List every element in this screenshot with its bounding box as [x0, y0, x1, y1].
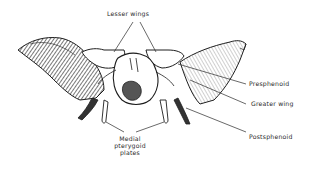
leader-postsphenoid	[186, 108, 246, 132]
right-greater-wing	[180, 41, 246, 104]
label-postsphenoid: Postsphenoid	[249, 133, 293, 140]
sphenoid-diagram: Lesser wings Presphenoid Greater wing Po…	[0, 0, 319, 174]
label-medial-line3: plates	[104, 149, 156, 156]
label-lesser-wings: Lesser wings	[107, 10, 149, 17]
leader-lesser-wing-right	[140, 22, 156, 52]
leader-lesser-wing-left	[114, 22, 133, 52]
label-greater-wing: Greater wing	[251, 100, 294, 107]
leader-medial-pterygoid-right	[136, 122, 164, 132]
label-medial-line2: pterygoid	[104, 142, 156, 149]
left-greater-wing	[18, 38, 104, 101]
label-medial-line1: Medial	[104, 135, 156, 142]
label-medial-pterygoid-plates: Medial pterygoid plates	[104, 135, 156, 157]
leader-medial-pterygoid-left	[106, 122, 124, 132]
label-presphenoid: Presphenoid	[249, 80, 289, 87]
